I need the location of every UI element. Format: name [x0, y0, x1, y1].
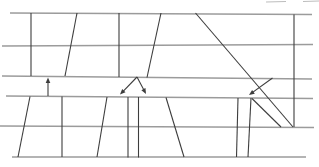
- top-band-rule-3: [2, 76, 312, 79]
- split-arrow-left-shaft: [122, 77, 137, 93]
- up-arrow-head: [46, 78, 51, 84]
- right-strip-short-diagonal: [252, 99, 281, 128]
- top-band-rule-2: [2, 45, 313, 47]
- arrows-group: [46, 77, 273, 96]
- bottom-band-rule-2: [0, 126, 314, 128]
- right-strip-left-edge: [237, 98, 239, 157]
- top-shape1-right-edge: [65, 13, 77, 76]
- band-lines-group: [0, 13, 314, 157]
- top-edge-fragment-1: [266, 2, 286, 3]
- faint-lines-group: [266, 1, 319, 2]
- diagram-canvas: [0, 0, 319, 167]
- shape-lines-group: [18, 13, 294, 158]
- long-diagonal: [196, 13, 294, 127]
- diagram-page: [0, 0, 319, 167]
- top-edge-fragment-2: [303, 1, 319, 2]
- pointer-arrow-head: [249, 90, 255, 95]
